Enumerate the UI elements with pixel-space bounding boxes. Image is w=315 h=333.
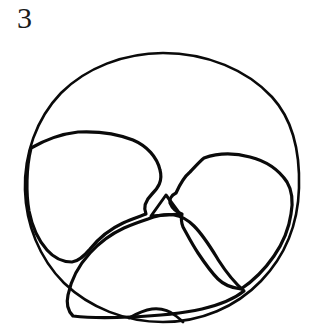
central-junction-triangle (151, 195, 180, 216)
specimen-line-drawing (0, 0, 315, 333)
final-chamber-outline (67, 215, 244, 318)
left-chamber-outline (27, 132, 161, 262)
figure-root: 3 (0, 0, 315, 333)
outer-test-outline (25, 53, 299, 322)
